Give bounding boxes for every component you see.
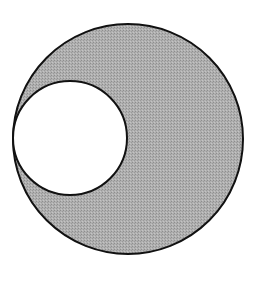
circles-diagram	[0, 0, 260, 281]
inner-circle	[13, 81, 127, 195]
diagram-canvas	[0, 0, 260, 281]
